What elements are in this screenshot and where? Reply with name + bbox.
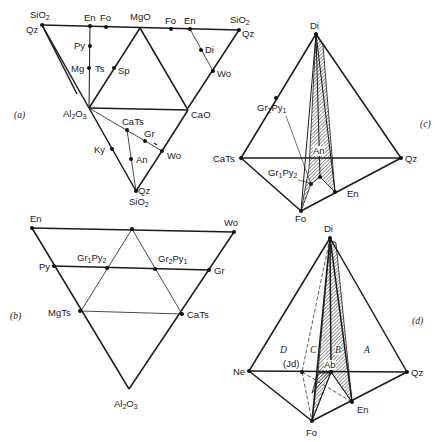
label-di: Di [310,21,319,31]
label-sio2-top-right: SiO2 [230,15,250,25]
label-py: Py [74,41,85,51]
label-mg: Mg [71,64,84,74]
label-qz: Qz [411,368,423,378]
label-qz: Qz [405,154,417,164]
label-ky: Ky [94,145,105,155]
region-label-a: A [364,345,370,355]
label-sio2-top-left: SiO2 [30,10,50,20]
panel-b-label: (b) [10,311,21,321]
label-gr2py1: Gr2Py1 [158,254,187,264]
label-gr1py2: Gr1Py2 [77,253,106,263]
panel-d-label: (d) [412,316,423,326]
label-an: An [136,155,148,165]
label-wo-bottom: Wo [167,151,181,161]
label-ab: Ab [324,360,336,370]
label-cao: CaO [191,110,211,120]
label-fo: Fo [306,428,317,438]
label-gr2py1: Gr2Py1 [257,103,286,113]
diagram-lines [0,0,438,442]
label-en-right: En [184,16,196,26]
panel-b-points [30,226,236,316]
label-en: En [30,214,42,224]
label-an: An [313,146,325,156]
panel-c-label: (c) [420,119,431,129]
label-gr: Gr [144,129,155,139]
label-fo-left: Fo [100,13,111,23]
label-sp: Sp [118,66,130,76]
label-cats: CaTs [122,117,144,127]
label-en: En [357,405,369,415]
label-al2o3: Al2O3 [114,399,138,409]
label-gr1py2: Gr1Py2 [268,168,297,178]
label-gr: Gr [214,266,225,276]
region-label-b: B [335,345,341,355]
label-al2o3: Al2O3 [63,109,87,119]
region-label-c: C [310,345,316,355]
label-mgo: MgO [130,12,151,22]
label-py: Py [39,262,50,272]
panel-a-label: (a) [14,110,25,120]
label-qz-top-left: Qz [26,25,38,35]
label-mgts: MgTs [48,308,71,318]
label-qz-bottom: Qz [138,186,150,196]
label-wo-right: Wo [217,69,231,79]
region-label-d: D [280,345,287,355]
label-ne: Ne [233,367,245,377]
label-fo: Fo [295,214,306,224]
label-di: Di [324,224,333,234]
label-cats: CaTs [187,310,209,320]
label-cats: CaTs [213,154,235,164]
label-di: Di [205,45,214,55]
label-qz-top-right: Qz [242,29,254,39]
phase-diagram-figure: (a) SiO2 Qz En Fo MgO Fo En SiO2 Qz Py M… [0,0,438,442]
label-en: En [347,189,359,199]
label-jd: (Jd) [283,359,299,369]
label-fo-right: Fo [165,16,176,26]
label-wo: Wo [224,218,238,228]
label-ts: Ts [95,64,105,74]
label-en-left: En [84,13,96,23]
label-sio2-bottom: SiO2 [129,197,149,207]
